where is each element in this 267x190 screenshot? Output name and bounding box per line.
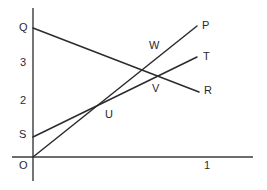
label-S: S — [19, 129, 27, 140]
line-s-t — [33, 57, 197, 137]
label-Q: Q — [19, 22, 28, 33]
label-R: R — [204, 85, 212, 96]
label-O: O — [19, 160, 28, 171]
label-U: U — [105, 109, 113, 120]
label-W: W — [149, 40, 160, 51]
plot-canvas — [0, 0, 267, 190]
line-graph-figure: 3 2 1 Q P W T V R S U O — [0, 0, 267, 190]
y-tick-label-2: 2 — [20, 95, 26, 106]
line-q-r — [33, 28, 199, 92]
label-P: P — [202, 20, 210, 31]
label-V: V — [152, 83, 160, 94]
label-T: T — [203, 51, 210, 62]
y-tick-label-3: 3 — [20, 57, 26, 68]
line-o-p — [33, 26, 197, 157]
x-tick-label-1: 1 — [204, 160, 210, 171]
